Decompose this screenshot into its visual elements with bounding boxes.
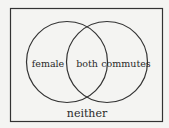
label-both: both	[76, 58, 98, 69]
venn-diagram: female both commutes neither	[0, 0, 169, 128]
label-neither: neither	[67, 107, 108, 120]
label-commutes: commutes	[101, 58, 151, 69]
label-female: female	[32, 58, 65, 69]
